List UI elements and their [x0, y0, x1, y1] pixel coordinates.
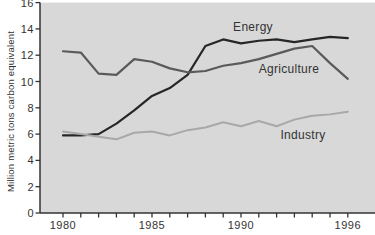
plot-background: [40, 3, 375, 213]
y-tick-label: 12: [21, 49, 34, 61]
y-tick-label: 0: [27, 207, 34, 219]
x-tick-label: 1985: [139, 219, 165, 231]
x-tick-label: 1980: [50, 219, 76, 231]
emissions-line-chart: Million metric tons carbon equivalent 02…: [0, 0, 375, 235]
y-tick-label: 10: [21, 76, 34, 88]
y-tick-label: 16: [21, 0, 34, 9]
x-tick-label: 1996: [335, 219, 361, 231]
series-label-energy: Energy: [233, 20, 273, 34]
x-tick-label: 1990: [228, 219, 254, 231]
y-tick-label: 14: [21, 23, 34, 35]
y-tick-label: 8: [27, 102, 34, 114]
series-label-agriculture: Agriculture: [259, 62, 320, 76]
series-label-industry: Industry: [280, 128, 325, 142]
y-tick-label: 6: [27, 128, 34, 140]
y-tick-label: 4: [27, 154, 34, 166]
chart-svg: 02468101214161980198519901996EnergyAgric…: [0, 0, 375, 235]
y-tick-label: 2: [27, 181, 34, 193]
